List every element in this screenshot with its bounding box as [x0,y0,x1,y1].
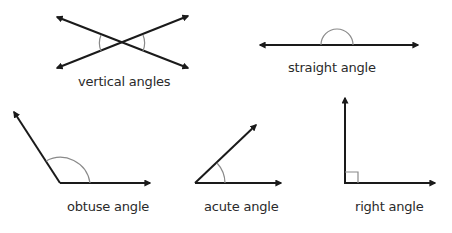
right-angle-marker [345,172,358,183]
straight-angle-figure [260,29,418,45]
right-angle-figure [344,98,435,184]
vertical-angles-label: vertical angles [78,74,170,89]
obtuse-angle-figure [14,112,150,183]
angle-arc [321,29,353,45]
obtuse-angle-label: obtuse angle [67,199,149,214]
right-angle-label: right angle [355,199,424,214]
acute-angle-label: acute angle [204,199,278,214]
acute-angle-figure [195,125,281,183]
angle-arc-left [99,35,101,51]
ray-up [195,125,256,183]
angle-arc [217,163,225,183]
vertical-angles-figure [57,16,188,68]
straight-angle-label: straight angle [288,60,376,75]
angle-arc-right [143,35,145,51]
ray-up [14,112,60,183]
